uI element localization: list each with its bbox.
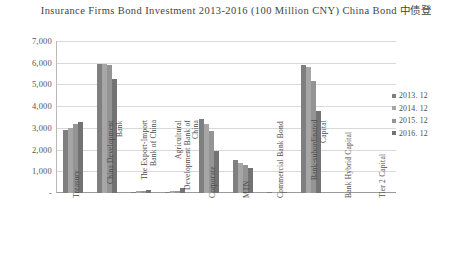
x-axis-tick-label: Bank Hybrid Capital (345, 132, 354, 198)
legend-label: 2013. 12 (399, 91, 428, 100)
legend-item[interactable]: 2014. 12 (392, 103, 470, 114)
x-axis-tick-label: Commercial Bank Bond (277, 121, 286, 198)
x-axis-tick-label: Corporate (209, 166, 218, 198)
x-axis-tick: Treasury (56, 196, 90, 278)
legend-item[interactable]: 2016. 12 (392, 128, 470, 139)
x-axis-tick-label: Tier 2 Capital (379, 154, 388, 198)
x-axis-tick: Agricultural Development Bank of China (158, 196, 192, 278)
legend: 2013. 122014. 122015. 122016. 12 (392, 90, 470, 140)
chart-title: Insurance Firms Bond Investment 2013-201… (36, 4, 436, 18)
y-axis-tick-label: 3,000 (0, 123, 52, 133)
legend-label: 2015. 12 (399, 116, 428, 125)
y-axis-tick-label: 1,000 (0, 166, 52, 176)
legend-label: 2014. 12 (399, 104, 428, 113)
x-axis-tick: Bank-subordinated Capital (294, 196, 328, 278)
legend-swatch-icon (392, 119, 396, 123)
bar-group (226, 41, 260, 193)
y-axis-tick-label: 5,000 (0, 79, 52, 89)
legend-swatch-icon (392, 131, 396, 135)
legend-label: 2016. 12 (399, 129, 428, 138)
x-axis-tick-label: China Development Bank (107, 120, 124, 198)
y-axis-tick-label: 2,000 (0, 145, 52, 155)
x-axis-tick-label: MTN (243, 181, 252, 198)
bar-chart: Insurance Firms Bond Investment 2013-201… (0, 0, 472, 278)
x-axis-tick: MTN (226, 196, 260, 278)
x-axis-tick-label: Bank-subordinated Capital (311, 120, 328, 198)
legend-swatch-icon (392, 106, 396, 110)
x-axis-tick: The Export-Import Bank of China (124, 196, 158, 278)
x-axis-labels: TreasuryChina Development BankThe Export… (56, 196, 396, 278)
x-axis-tick: Tier 2 Capital (362, 196, 396, 278)
x-axis-tick: Commercial Bank Bond (260, 196, 294, 278)
x-axis-tick-label: The Export-Import Bank of China (141, 120, 158, 198)
y-axis-tick-label: 7,000 (0, 36, 52, 46)
legend-item[interactable]: 2015. 12 (392, 115, 470, 126)
legend-item[interactable]: 2013. 12 (392, 90, 470, 101)
x-axis-tick: Bank Hybrid Capital (328, 196, 362, 278)
x-axis-tick-label: Treasury (73, 170, 82, 198)
y-axis-labels: 7,0006,0005,0004,0003,0002,0001,000- (0, 34, 52, 200)
x-axis-tick: China Development Bank (90, 196, 124, 278)
legend-swatch-icon (392, 94, 396, 98)
y-axis-tick-label: 4,000 (0, 101, 52, 111)
y-axis-tick-label: - (0, 188, 52, 198)
x-axis-tick-label: Agricultural Development Bank of China (175, 120, 201, 198)
y-axis-tick-label: 6,000 (0, 58, 52, 68)
x-axis-tick: Corporate (192, 196, 226, 278)
